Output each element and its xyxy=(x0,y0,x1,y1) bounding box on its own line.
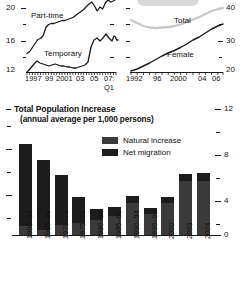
x-tick-label: 06 xyxy=(212,75,220,83)
x-axis-note: Q1 xyxy=(104,84,114,92)
x-category-label: 2004 xyxy=(204,223,212,239)
series-label-total: Total xyxy=(174,16,191,25)
x-category-label: 1990–94 xyxy=(133,210,141,239)
labour-market-line-chart: 20 16 12 xyxy=(0,0,122,96)
x-category-label: 1965–69 xyxy=(44,210,52,239)
employment-rate-line-chart: 40 30 20 Total Female 1992 96 2000 xyxy=(122,0,245,96)
title-leader-tick xyxy=(6,109,11,110)
chart-title: Total Population Increase xyxy=(14,104,115,115)
x-tick-label: 1992 xyxy=(126,75,143,83)
bar-segment-natural-increase xyxy=(179,174,192,182)
x-tick-label: 96 xyxy=(153,75,161,83)
x-tick-label: 03 xyxy=(76,75,84,83)
y-tick-label: 20 xyxy=(6,4,15,12)
bar-segment-natural-increase xyxy=(197,173,210,182)
y-tick-minor-right xyxy=(216,224,220,225)
y-tick-label: 20 xyxy=(226,66,235,74)
x-tick-label: 99 xyxy=(45,75,53,83)
bar-segment-natural-increase xyxy=(126,196,139,204)
x-category-label: 2000 xyxy=(168,223,176,239)
series-label-part-time: Part-time xyxy=(31,11,63,20)
y-tick-minor-right xyxy=(216,132,220,133)
y-tick-minor-left xyxy=(7,126,11,127)
x-category-label: 1985–89 xyxy=(115,210,123,239)
series-label-temporary: Temporary xyxy=(44,49,82,58)
y-tick-label: 12 xyxy=(6,66,15,74)
series-label-female: Female xyxy=(167,50,194,59)
line-series-group xyxy=(130,4,224,74)
x-tick-label: 2001 xyxy=(56,75,73,83)
y-tick-major-left xyxy=(6,195,12,196)
y-tick-label: 4 xyxy=(224,197,228,205)
total-population-increase-bar-chart: Total Population Increase (annual averag… xyxy=(0,98,245,284)
x-tick-label: 1997 xyxy=(25,75,42,83)
x-category-label: 1970–74 xyxy=(62,210,70,239)
female-line xyxy=(131,24,223,71)
x-category-label: 1975–79 xyxy=(79,210,87,239)
y-tick-label: 40 xyxy=(226,4,235,12)
x-category-label: 1960–64 xyxy=(26,210,34,239)
y-tick-minor-left xyxy=(7,218,11,219)
y-tick-major-left xyxy=(6,149,12,150)
x-tick-label: 05 xyxy=(90,75,98,83)
y-tick-minor-left xyxy=(7,172,11,173)
y-tick-label: 30 xyxy=(226,37,235,45)
x-tick-label: 04 xyxy=(198,75,206,83)
y-tick-label: 8 xyxy=(224,151,228,159)
x-category-label: 2003 xyxy=(186,223,194,239)
y-tick-label: 16 xyxy=(6,37,15,45)
y-tick-label: 0 xyxy=(224,231,228,239)
y-tick-minor-right xyxy=(216,178,220,179)
x-category-label: 1995–99 xyxy=(151,210,159,239)
x-category-label: 1980–84 xyxy=(97,210,105,239)
y-tick-label: 12 xyxy=(224,105,233,113)
y-tick-major-right xyxy=(215,109,221,110)
x-tick-label: 2000 xyxy=(170,75,187,83)
y-tick-major-right xyxy=(215,155,221,156)
part-time-line xyxy=(27,0,116,54)
bar-segment-natural-increase xyxy=(161,197,174,204)
y-tick-major-right xyxy=(215,201,221,202)
x-tick-label: 07: xyxy=(104,75,114,83)
